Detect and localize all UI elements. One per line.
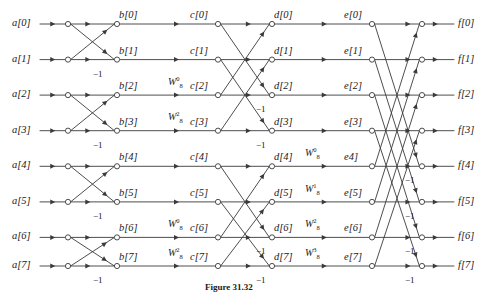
node-c-1 <box>215 57 220 62</box>
node-e-1 <box>369 57 374 62</box>
node-n1-0 <box>65 21 70 26</box>
minus-one-a-b-row1: −1 <box>93 70 103 79</box>
label-d-1: d[1] <box>274 46 293 57</box>
minus-one-c-d-row3: −1 <box>256 141 266 150</box>
stage1-twiddle-edge-6-arrowhead <box>174 235 179 240</box>
minus-one-a-b-row7: −1 <box>93 276 103 285</box>
stage1-straight-0-arrowhead <box>85 22 90 27</box>
label-e-4: e4] <box>344 152 358 163</box>
label-a-1: a[1] <box>12 54 31 65</box>
node-e-0 <box>369 21 374 26</box>
stage2-cross-0-2-arrowhead <box>259 82 264 88</box>
node-b-7 <box>114 263 119 268</box>
output-edge-0-arrowhead <box>433 22 438 27</box>
output-edge-1-arrowhead <box>433 57 438 62</box>
twiddle-d-e-row7: W38 <box>305 247 320 261</box>
node-e-6 <box>369 235 374 240</box>
node-n1-4 <box>65 164 70 169</box>
stage2-twiddle-edge-7-arrowhead <box>322 264 327 269</box>
label-c-3: c[3] <box>190 117 208 128</box>
node-c-6 <box>215 235 220 240</box>
label-a-7: a[7] <box>12 260 31 271</box>
fft-butterfly-figure: a[0]a[1]a[2]a[3]a[4]a[5]a[6]a[7]b[0]b[1]… <box>0 0 494 293</box>
stage2-cross-1-3-arrowhead <box>259 118 264 124</box>
label-d-7: d[7] <box>274 252 293 263</box>
label-b-3: b[3] <box>119 117 138 128</box>
label-f-7: f[7] <box>458 260 474 271</box>
label-e-0: e[0] <box>344 10 362 21</box>
signal-flow-graph <box>0 0 494 293</box>
node-c-7 <box>215 263 220 268</box>
label-a-5: a[5] <box>12 196 31 207</box>
stage2-straight-7-arrowhead <box>246 264 251 269</box>
stage2-twiddle-edge-4-arrowhead <box>322 164 327 169</box>
stage2-straight-0-arrowhead <box>246 22 251 27</box>
stage1-straight-5-arrowhead <box>85 199 90 204</box>
twiddle-d-e-row4: W08 <box>305 147 320 161</box>
output-edge-6-arrowhead <box>433 235 438 240</box>
label-f-1: f[1] <box>458 54 474 65</box>
label-f-3: f[3] <box>458 125 474 136</box>
node-f-1 <box>419 57 424 62</box>
stage2-twiddle-edge-6-arrowhead <box>322 235 327 240</box>
stage2-twiddle-edge-2-arrowhead <box>322 93 327 98</box>
label-b-4: b[4] <box>119 152 138 163</box>
input-edge-5-arrowhead <box>50 199 55 204</box>
node-d-3 <box>269 128 274 133</box>
stage2-cross-7-5-arrowhead <box>259 209 264 214</box>
stage1-straight-6-arrowhead <box>85 235 90 240</box>
label-d-0: d[0] <box>274 10 293 21</box>
input-edge-2-arrowhead <box>50 93 55 98</box>
label-b-7: b[7] <box>119 252 138 263</box>
label-f-2: f[2] <box>458 89 474 100</box>
node-e-3 <box>369 128 374 133</box>
twiddle-b-c-row2: W08 <box>168 76 183 90</box>
stage3-straight-0-arrowhead <box>405 22 410 27</box>
node-c-0 <box>215 21 220 26</box>
stage1-twiddle-edge-4-arrowhead <box>174 164 179 169</box>
label-a-2: a[2] <box>12 89 31 100</box>
label-e-5: e[5] <box>344 188 362 199</box>
stage1-straight-3-arrowhead <box>85 128 90 133</box>
input-edge-4-arrowhead <box>50 164 55 169</box>
label-c-0: c[0] <box>190 10 208 21</box>
output-edge-2-arrowhead <box>433 93 438 98</box>
output-edge-4-arrowhead <box>433 164 438 169</box>
stage2-cross-6-4-arrowhead <box>259 174 264 180</box>
twiddle-d-e-row5: W18 <box>305 183 320 197</box>
label-d-2: d[2] <box>274 81 293 92</box>
stage1-straight-1-arrowhead <box>85 57 90 62</box>
label-b-6: b[6] <box>119 223 138 234</box>
output-edge-7-arrowhead <box>433 264 438 269</box>
label-c-2: c[2] <box>190 81 208 92</box>
label-c-7: c[7] <box>190 252 208 263</box>
stage1-twiddle-edge-2-arrowhead <box>174 93 179 98</box>
node-b-5 <box>114 199 119 204</box>
label-f-6: f[6] <box>458 231 474 242</box>
node-e-7 <box>369 263 374 268</box>
node-d-1 <box>269 57 274 62</box>
stage2-cross-4-6-arrowhead <box>259 224 264 230</box>
label-c-5: c[5] <box>190 188 208 199</box>
stage2-twiddle-edge-3-arrowhead <box>322 128 327 133</box>
node-d-5 <box>269 199 274 204</box>
label-e-7: e[7] <box>344 252 362 263</box>
label-a-0: a[0] <box>12 18 31 29</box>
stage2-cross-3-1-arrowhead <box>259 67 264 73</box>
node-d-2 <box>269 93 274 98</box>
node-n1-1 <box>65 57 70 62</box>
stage1-straight-7-arrowhead <box>85 264 90 269</box>
node-d-7 <box>269 263 274 268</box>
node-f-2 <box>419 93 424 98</box>
output-edge-3-arrowhead <box>433 128 438 133</box>
node-b-2 <box>114 93 119 98</box>
minus-one-e-f-row5: −1 <box>405 212 415 221</box>
label-f-0: f[0] <box>458 18 474 29</box>
node-n1-2 <box>65 93 70 98</box>
node-n1-5 <box>65 199 70 204</box>
label-b-2: b[2] <box>119 81 138 92</box>
node-f-6 <box>419 235 424 240</box>
stage1-twiddle-edge-3-arrowhead <box>174 128 179 133</box>
twiddle-d-e-row6: W28 <box>305 218 320 232</box>
node-b-3 <box>114 128 119 133</box>
